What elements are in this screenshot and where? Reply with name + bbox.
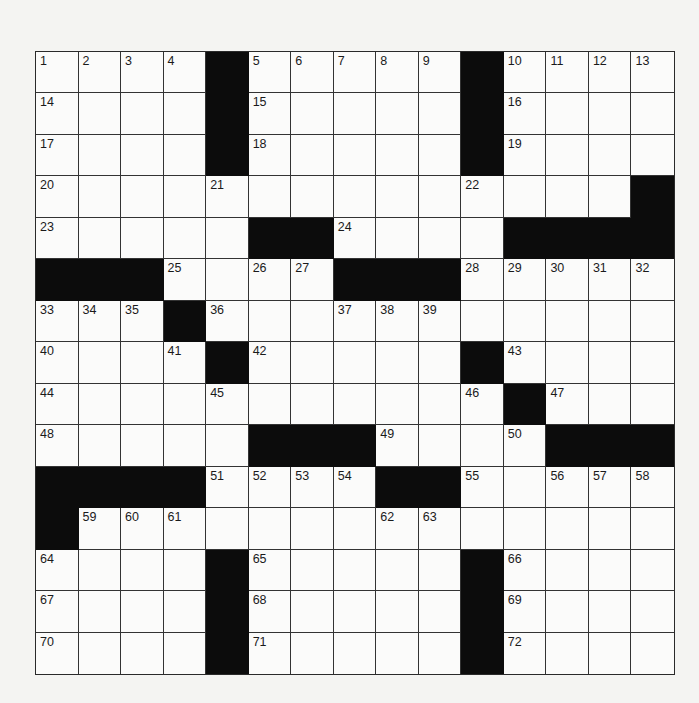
answer-square[interactable] — [164, 93, 207, 134]
answer-square[interactable] — [164, 633, 207, 674]
answer-square[interactable] — [546, 550, 589, 591]
answer-square[interactable] — [376, 384, 419, 425]
answer-square[interactable] — [461, 425, 504, 466]
answer-square[interactable]: 72 — [504, 633, 547, 674]
answer-square[interactable]: 41 — [164, 342, 207, 383]
answer-square[interactable]: 2 — [79, 52, 122, 93]
answer-square[interactable] — [291, 342, 334, 383]
answer-square[interactable]: 44 — [36, 384, 79, 425]
answer-square[interactable] — [546, 508, 589, 549]
answer-square[interactable] — [206, 259, 249, 300]
answer-square[interactable] — [589, 176, 632, 217]
answer-square[interactable]: 12 — [589, 52, 632, 93]
answer-square[interactable] — [334, 550, 377, 591]
answer-square[interactable]: 33 — [36, 301, 79, 342]
answer-square[interactable] — [291, 633, 334, 674]
answer-square[interactable] — [376, 591, 419, 632]
answer-square[interactable]: 59 — [79, 508, 122, 549]
answer-square[interactable] — [164, 591, 207, 632]
answer-square[interactable] — [206, 425, 249, 466]
answer-square[interactable]: 1 — [36, 52, 79, 93]
answer-square[interactable]: 58 — [631, 467, 674, 508]
answer-square[interactable] — [419, 342, 462, 383]
answer-square[interactable] — [334, 93, 377, 134]
answer-square[interactable] — [546, 176, 589, 217]
answer-square[interactable]: 9 — [419, 52, 462, 93]
answer-square[interactable]: 20 — [36, 176, 79, 217]
answer-square[interactable]: 36 — [206, 301, 249, 342]
answer-square[interactable]: 13 — [631, 52, 674, 93]
answer-square[interactable] — [461, 301, 504, 342]
answer-square[interactable] — [504, 176, 547, 217]
answer-square[interactable] — [79, 425, 122, 466]
answer-square[interactable] — [589, 550, 632, 591]
answer-square[interactable] — [376, 218, 419, 259]
answer-square[interactable]: 27 — [291, 259, 334, 300]
answer-square[interactable] — [376, 135, 419, 176]
answer-square[interactable]: 31 — [589, 259, 632, 300]
answer-square[interactable] — [121, 218, 164, 259]
answer-square[interactable] — [79, 591, 122, 632]
answer-square[interactable] — [249, 176, 292, 217]
answer-square[interactable] — [589, 508, 632, 549]
answer-square[interactable] — [546, 633, 589, 674]
answer-square[interactable] — [121, 93, 164, 134]
answer-square[interactable]: 38 — [376, 301, 419, 342]
answer-square[interactable] — [419, 425, 462, 466]
answer-square[interactable]: 7 — [334, 52, 377, 93]
answer-square[interactable]: 61 — [164, 508, 207, 549]
answer-square[interactable] — [461, 218, 504, 259]
answer-square[interactable] — [589, 342, 632, 383]
answer-square[interactable]: 22 — [461, 176, 504, 217]
answer-square[interactable] — [631, 550, 674, 591]
answer-square[interactable] — [419, 591, 462, 632]
answer-square[interactable]: 71 — [249, 633, 292, 674]
answer-square[interactable]: 18 — [249, 135, 292, 176]
answer-square[interactable]: 32 — [631, 259, 674, 300]
answer-square[interactable] — [376, 176, 419, 217]
answer-square[interactable]: 66 — [504, 550, 547, 591]
answer-square[interactable] — [79, 176, 122, 217]
answer-square[interactable]: 62 — [376, 508, 419, 549]
answer-square[interactable]: 49 — [376, 425, 419, 466]
answer-square[interactable] — [419, 633, 462, 674]
answer-square[interactable] — [291, 93, 334, 134]
answer-square[interactable] — [206, 218, 249, 259]
answer-square[interactable] — [79, 135, 122, 176]
answer-square[interactable]: 63 — [419, 508, 462, 549]
answer-square[interactable]: 5 — [249, 52, 292, 93]
answer-square[interactable] — [79, 384, 122, 425]
answer-square[interactable]: 46 — [461, 384, 504, 425]
answer-square[interactable] — [504, 467, 547, 508]
answer-square[interactable]: 69 — [504, 591, 547, 632]
answer-square[interactable]: 26 — [249, 259, 292, 300]
answer-square[interactable] — [121, 591, 164, 632]
answer-square[interactable]: 34 — [79, 301, 122, 342]
answer-square[interactable] — [376, 93, 419, 134]
answer-square[interactable] — [291, 135, 334, 176]
answer-square[interactable] — [631, 301, 674, 342]
answer-square[interactable] — [79, 93, 122, 134]
answer-square[interactable] — [419, 93, 462, 134]
answer-square[interactable] — [79, 550, 122, 591]
answer-square[interactable]: 45 — [206, 384, 249, 425]
answer-square[interactable] — [121, 176, 164, 217]
answer-square[interactable] — [121, 384, 164, 425]
answer-square[interactable] — [121, 633, 164, 674]
answer-square[interactable]: 29 — [504, 259, 547, 300]
answer-square[interactable]: 19 — [504, 135, 547, 176]
answer-square[interactable] — [291, 550, 334, 591]
answer-square[interactable] — [376, 550, 419, 591]
answer-square[interactable]: 30 — [546, 259, 589, 300]
answer-square[interactable] — [589, 591, 632, 632]
answer-square[interactable] — [79, 342, 122, 383]
answer-square[interactable]: 42 — [249, 342, 292, 383]
answer-square[interactable]: 28 — [461, 259, 504, 300]
answer-square[interactable] — [121, 342, 164, 383]
answer-square[interactable] — [589, 301, 632, 342]
answer-square[interactable]: 39 — [419, 301, 462, 342]
answer-square[interactable]: 53 — [291, 467, 334, 508]
answer-square[interactable] — [631, 93, 674, 134]
answer-square[interactable]: 16 — [504, 93, 547, 134]
answer-square[interactable]: 10 — [504, 52, 547, 93]
